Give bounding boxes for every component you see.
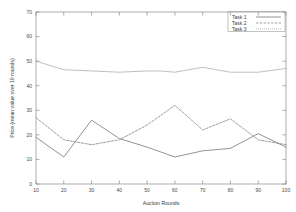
x-tick-label: 50 [144,187,150,193]
legend: Task 1Task 2Task 3 [228,12,285,32]
y-tick-label: 50 [26,58,32,64]
x-tick-label: 80 [228,187,234,193]
legend-label-3: Task 3 [232,26,247,32]
data-series-group [36,61,286,157]
x-tick-label: 10 [33,187,39,193]
y-tick-label: 40 [26,83,32,89]
y-tick-label: 0 [29,181,32,187]
y-tick-label: 30 [26,107,32,113]
y-tick-label: 70 [26,9,32,15]
y-axis-label: Price (mean value over 10 rounds) [9,58,15,138]
x-tick-label: 100 [282,187,291,193]
line-chart: 010203040506070 102030405060708090100 Au… [0,0,296,212]
x-axis-ticks: 102030405060708090100 [33,12,290,193]
legend-entries: Task 1Task 2Task 3 [232,14,281,32]
y-tick-label: 20 [26,132,32,138]
x-tick-label: 40 [117,187,123,193]
y-axis-ticks: 010203040506070 [26,9,286,187]
x-tick-label: 30 [89,187,95,193]
series-line-1 [36,120,286,157]
x-tick-label: 70 [200,187,206,193]
series-line-3 [36,61,286,72]
y-tick-label: 60 [26,33,32,39]
x-tick-label: 90 [255,187,261,193]
x-axis-label: Auction Rounds [143,200,180,206]
x-tick-label: 20 [61,187,67,193]
plot-frame [36,12,286,184]
x-tick-label: 60 [172,187,178,193]
y-tick-label: 10 [26,156,32,162]
chart-figure: 010203040506070 102030405060708090100 Au… [0,0,296,212]
